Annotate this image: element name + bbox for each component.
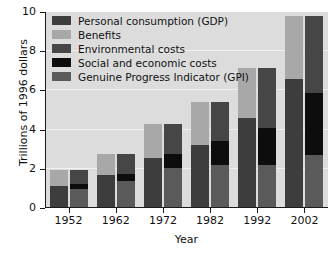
legend-label: Personal consumption (GDP) xyxy=(78,15,228,27)
y-tick-mark xyxy=(40,130,45,131)
y-tick-label: 8 xyxy=(10,45,36,56)
x-tick-mark xyxy=(257,208,258,213)
legend-label: Environmental costs xyxy=(78,43,185,55)
x-tick-label: 1962 xyxy=(94,215,138,227)
bar-segment xyxy=(211,141,229,165)
legend-label: Benefits xyxy=(78,29,121,41)
bar-segment xyxy=(285,16,303,79)
bar-segment xyxy=(70,189,88,208)
legend-item: Environmental costs xyxy=(52,42,249,55)
gdp-bar xyxy=(144,124,162,208)
gpi-bar xyxy=(70,170,88,208)
legend-label: Genuine Progress Indicator (GPI) xyxy=(78,71,249,83)
y-tick-mark xyxy=(40,169,45,170)
x-tick-mark xyxy=(163,208,164,213)
bar-segment xyxy=(164,168,182,208)
bar-segment xyxy=(285,79,303,208)
gpi-bar xyxy=(305,16,323,208)
gpi-bar xyxy=(117,154,135,208)
legend-swatch-icon xyxy=(52,72,71,81)
bar-segment xyxy=(258,165,276,209)
x-tick-label: 1982 xyxy=(188,215,232,227)
x-tick-label: 1972 xyxy=(141,215,185,227)
x-tick-label: 1992 xyxy=(235,215,279,227)
gpi-bar xyxy=(164,124,182,208)
y-tick-label: 2 xyxy=(10,163,36,174)
x-tick-mark xyxy=(116,208,117,213)
chart-legend: Personal consumption (GDP)BenefitsEnviro… xyxy=(52,14,249,83)
gdp-bar xyxy=(238,68,256,208)
gdp-bar xyxy=(50,170,68,208)
y-tick-mark xyxy=(40,90,45,91)
legend-swatch-icon xyxy=(52,30,71,39)
bar-segment xyxy=(164,124,182,154)
gpi-bar xyxy=(258,68,276,208)
bar-segment xyxy=(70,170,88,184)
bar-segment xyxy=(144,158,162,208)
bar-segment xyxy=(258,68,276,128)
y-tick-mark xyxy=(40,51,45,52)
legend-swatch-icon xyxy=(52,58,71,67)
bar-segment xyxy=(305,16,323,93)
bar-segment xyxy=(305,93,323,156)
x-axis-line xyxy=(45,207,328,208)
gdp-bar xyxy=(191,102,209,208)
bar-segment xyxy=(305,155,323,208)
x-tick-mark xyxy=(210,208,211,213)
x-tick-label: 2002 xyxy=(282,215,326,227)
gpi-bar xyxy=(211,102,229,208)
x-axis-label: Year xyxy=(45,233,328,246)
bar-segment xyxy=(144,124,162,158)
bar-segment xyxy=(117,174,135,181)
bar-segment xyxy=(258,128,276,164)
legend-swatch-icon xyxy=(52,44,71,53)
bar-segment xyxy=(50,186,68,208)
bar-segment xyxy=(117,154,135,175)
x-tick-mark xyxy=(304,208,305,213)
bar-segment xyxy=(191,102,209,146)
y-tick-label: 0 xyxy=(10,202,36,213)
bar-segment xyxy=(211,165,229,209)
bar-segment xyxy=(97,154,115,176)
x-tick-label: 1952 xyxy=(47,215,91,227)
y-tick-label: 6 xyxy=(10,84,36,95)
bar-segment xyxy=(70,184,88,190)
y-tick-mark xyxy=(40,12,45,13)
legend-item: Genuine Progress Indicator (GPI) xyxy=(52,70,249,83)
legend-item: Social and economic costs xyxy=(52,56,249,69)
bar-segment xyxy=(191,145,209,208)
x-tick-mark xyxy=(69,208,70,213)
bar-segment xyxy=(238,118,256,208)
y-tick-label: 4 xyxy=(10,124,36,135)
bar-segment xyxy=(50,170,68,187)
legend-swatch-icon xyxy=(52,16,71,25)
gdp-bar xyxy=(285,16,303,208)
legend-item: Personal consumption (GDP) xyxy=(52,14,249,27)
bar-segment xyxy=(97,175,115,208)
chart-figure: Trillions of 1996 dollars 0246810 195219… xyxy=(0,0,335,254)
legend-item: Benefits xyxy=(52,28,249,41)
y-tick-label: 10 xyxy=(10,6,36,17)
legend-label: Social and economic costs xyxy=(78,57,217,69)
y-tick-mark xyxy=(40,208,45,209)
bar-segment xyxy=(164,154,182,168)
bar-segment xyxy=(211,102,229,141)
gdp-bar xyxy=(97,154,115,208)
bar-group xyxy=(285,12,323,208)
bar-segment xyxy=(117,181,135,208)
y-axis-line xyxy=(45,12,46,208)
